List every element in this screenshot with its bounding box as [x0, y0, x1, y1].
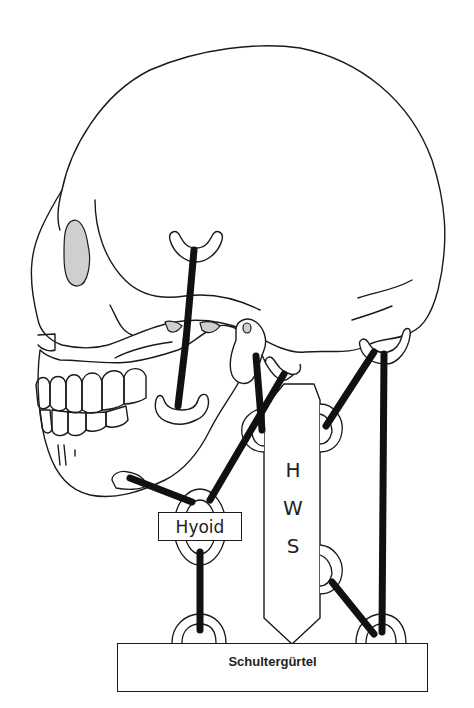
cheek-line — [110, 305, 132, 335]
skull-outline — [31, 46, 444, 352]
muscle-trapezius — [382, 354, 384, 632]
coronoid-process — [165, 321, 182, 332]
muscle-temporalis — [186, 250, 194, 340]
occipital-line-2 — [352, 306, 392, 320]
muscle-occipital-hws — [326, 352, 374, 426]
hws-letter-h: H — [278, 458, 308, 482]
hyoid-label: Hyoid — [158, 512, 242, 541]
ear-canal — [243, 323, 251, 333]
hws-letter-w: W — [278, 496, 308, 520]
schultergurtel-label: Schultergürtel — [117, 643, 428, 692]
zygomatic-arch — [95, 200, 260, 310]
skull-diagram — [0, 0, 474, 708]
muscle-scalene — [332, 582, 374, 634]
nasal-cavity — [64, 220, 90, 286]
hws-letter-s: S — [278, 534, 308, 558]
maxilla — [38, 334, 55, 351]
occipital-line — [358, 280, 412, 298]
